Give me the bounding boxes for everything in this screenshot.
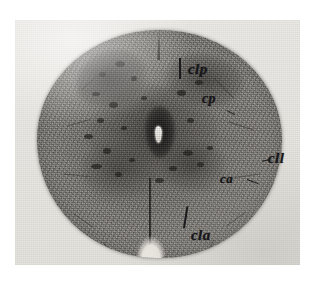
anterior-fissure-notch — [136, 236, 166, 258]
figure-root: clp cp cll ca cla — [0, 0, 315, 283]
posterior-median-sulcus — [158, 30, 160, 60]
anterior-median-fissure — [149, 178, 151, 244]
grey-matter-commissure — [89, 86, 217, 182]
grey-matter-anterior-horn-right — [158, 138, 228, 196]
grey-matter-anterior-horn-left — [77, 137, 158, 205]
label-cla: cla — [191, 228, 211, 243]
label-ca: ca — [220, 172, 233, 185]
spinal-cord-section — [37, 30, 282, 258]
film-grain-fine — [37, 30, 282, 258]
central-canal — [155, 126, 162, 143]
grey-matter-posterior-horn-left — [69, 42, 152, 114]
label-cll: cll — [268, 151, 284, 166]
central-canal-surround — [145, 106, 175, 158]
photographic-plate: clp cp cll ca cla — [15, 20, 300, 265]
label-clp: clp — [188, 62, 208, 77]
specimen-container — [37, 30, 282, 258]
film-grain-coarse — [37, 30, 282, 258]
label-cp: cp — [202, 92, 216, 106]
